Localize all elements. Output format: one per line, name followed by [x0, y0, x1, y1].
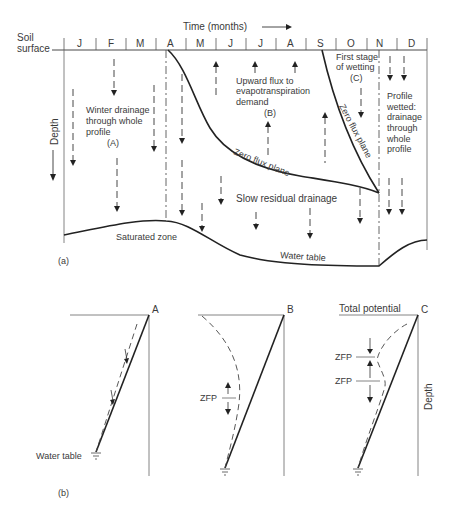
- profile-c-potential-curve: [358, 324, 407, 468]
- down-arrow-icon: [225, 409, 231, 415]
- region-d-line6: profile: [387, 144, 412, 154]
- region-b-line2: evapotranspiration: [236, 86, 310, 96]
- down-arrow-icon: [367, 397, 373, 403]
- water-table-label-b: Water table: [36, 451, 82, 461]
- zfp-b-label: ZFP: [200, 393, 217, 403]
- region-a-line2: through whole: [86, 116, 143, 126]
- panel-b-label: (b): [58, 488, 69, 498]
- profile-c-hydrostatic-line: [358, 315, 418, 468]
- soil-surface-label-2: surface: [17, 43, 50, 54]
- water-table-curve: [64, 220, 427, 266]
- profile-c: Total potential C Depth ZFP ZFP: [335, 303, 434, 476]
- region-c-tag: (C): [350, 73, 363, 83]
- depth-label: Depth: [49, 118, 60, 145]
- region-d-line4: through: [387, 123, 418, 133]
- depth-arrowhead-icon: [50, 174, 56, 181]
- region-a-tag: (A): [107, 138, 119, 148]
- month-label: M: [136, 38, 144, 49]
- water-table-symbol-icon: [91, 453, 101, 459]
- region-d-text: Profile wetted: drainage through whole p…: [386, 91, 422, 154]
- profile-b-hydrostatic-line: [225, 315, 284, 468]
- slow-drainage-label: Slow residual drainage: [236, 193, 338, 204]
- month-label: A: [287, 38, 294, 49]
- profile-c-label: C: [421, 304, 428, 315]
- total-potential-label: Total potential: [339, 303, 401, 314]
- month-ticks: [64, 38, 427, 50]
- panel-a-label: (a): [58, 256, 69, 266]
- month-label: J: [258, 38, 263, 49]
- region-a-line3: profile: [86, 127, 111, 137]
- zfp-c1-label: ZFP: [335, 352, 352, 362]
- profile-a: A Water table: [36, 304, 159, 476]
- month-label: M: [196, 38, 204, 49]
- month-label: J: [77, 38, 82, 49]
- soil-water-flux-diagram: Time (months) Soil surface J F: [0, 0, 450, 506]
- region-c-line1: First stage: [336, 52, 378, 62]
- profile-a-label: A: [152, 304, 159, 315]
- month-label: A: [167, 38, 174, 49]
- region-b-tag: (B): [264, 108, 276, 118]
- profile-a-hydrostatic-line: [96, 315, 149, 452]
- month-label: O: [347, 38, 355, 49]
- profile-b-label: B: [287, 304, 294, 315]
- panel-b: (b) A Water table B ZFP: [36, 303, 434, 498]
- region-b-line1: Upward flux to: [236, 76, 294, 86]
- profile-a-potential-curve: [96, 324, 137, 452]
- month-label: S: [317, 38, 324, 49]
- water-table-symbol-icon: [220, 469, 230, 475]
- region-b-line3: demand: [236, 97, 269, 107]
- region-d-line2: wetted:: [386, 102, 416, 112]
- panel-a: Time (months) Soil surface J F: [17, 21, 427, 266]
- region-b-text: Upward flux to evapotranspiration demand…: [236, 76, 310, 118]
- up-arrow-icon: [367, 360, 373, 366]
- region-a-line1: Winter drainage: [86, 105, 150, 115]
- region-c-text: First stage of wetting (C): [336, 52, 378, 83]
- region-d-line1: Profile: [387, 91, 413, 101]
- water-table-label: Water table: [280, 250, 326, 263]
- soil-surface-label-1: Soil: [17, 32, 34, 43]
- region-a-text: Winter drainage through whole profile (A…: [86, 105, 150, 148]
- profile-b: B ZFP: [198, 304, 294, 476]
- month-label: F: [108, 38, 114, 49]
- month-label: D: [408, 38, 415, 49]
- time-axis-label: Time (months): [183, 21, 247, 32]
- region-c-line2: of wetting: [336, 62, 375, 72]
- month-label: N: [376, 38, 383, 49]
- region-d-line5: whole: [386, 134, 411, 144]
- up-arrow-icon: [225, 382, 231, 388]
- saturated-zone-label: Saturated zone: [116, 232, 177, 242]
- depth-label-b: Depth: [423, 383, 434, 410]
- water-table-symbol-icon: [353, 469, 363, 475]
- zero-flux-plane-label-b: Zero flux plane: [232, 147, 291, 179]
- month-label: J: [228, 38, 233, 49]
- time-arrowhead-icon: [286, 24, 292, 30]
- zfp-c2-label: ZFP: [335, 376, 352, 386]
- down-arrow-icon: [367, 349, 373, 354]
- region-d-line3: drainage: [387, 112, 422, 122]
